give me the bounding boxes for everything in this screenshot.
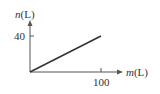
y-tick-label: 40 [14, 30, 26, 42]
y-axis-arrow-icon [28, 20, 33, 26]
chart: n(L) 40 100 m(L) [0, 0, 160, 94]
x-axis-arrow-icon [117, 70, 123, 75]
x-axis-label: m(L) [126, 66, 148, 79]
data-line [30, 36, 101, 72]
x-tick-label: 100 [93, 76, 110, 88]
y-axis-label: n(L) [15, 8, 35, 21]
